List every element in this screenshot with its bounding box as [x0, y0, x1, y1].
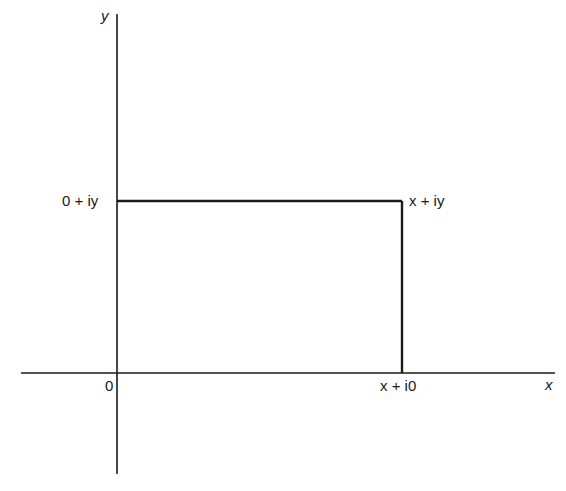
- point-top-right-text: x + iy: [409, 192, 445, 209]
- complex-plane-diagram: y x 0 0 + iy x + iy x + i0: [0, 0, 566, 491]
- point-top-right-label: x + iy: [409, 192, 445, 209]
- x-axis-label: x: [544, 376, 553, 393]
- point-top-left-text: 0 + iy: [62, 192, 99, 209]
- point-bottom-right-text: x + i0: [380, 377, 416, 394]
- y-axis-label: y: [100, 7, 110, 24]
- point-bottom-right-label: x + i0: [380, 377, 416, 394]
- origin-label: 0: [105, 377, 113, 394]
- point-top-left-label: 0 + iy: [62, 192, 99, 209]
